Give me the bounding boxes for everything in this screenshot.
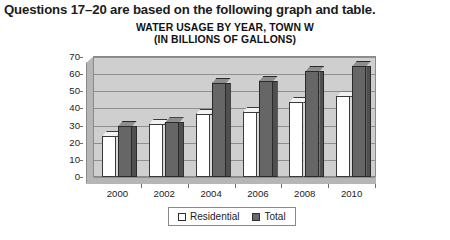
x-tick-label-2010: 2010	[330, 188, 374, 199]
y-tick-mark	[79, 74, 83, 75]
legend-label: Residential	[190, 211, 239, 222]
bar-total-2004	[212, 83, 226, 177]
y-axis: 010203040506070	[52, 56, 80, 184]
bar-front-face	[259, 81, 273, 177]
bar-total-2010	[352, 66, 366, 177]
bar-side-face	[179, 122, 184, 177]
y-tick-label: 10	[54, 155, 80, 165]
bar-total-2002	[165, 122, 179, 177]
y-tick-mark	[79, 160, 83, 161]
bar-front-face	[118, 126, 132, 177]
gridline	[94, 74, 375, 75]
x-axis: 200020022004200620082010	[94, 188, 376, 202]
bar-total-2006	[259, 81, 273, 177]
y-tick-mark	[79, 126, 83, 127]
x-tick-label-2004: 2004	[189, 188, 233, 199]
y-tick-mark	[79, 91, 83, 92]
bar-side-face	[319, 71, 324, 177]
bar-front-face	[149, 124, 163, 177]
legend-item-residential: Residential	[178, 211, 239, 222]
bar-front-face	[212, 83, 226, 177]
chart-title-line-1: WATER USAGE BY YEAR, TOWN W	[0, 22, 450, 34]
bar-front-face	[243, 112, 257, 177]
bar-side-face	[132, 126, 137, 177]
gridline	[94, 57, 375, 58]
figure-water-usage: WATER USAGE BY YEAR, TOWN W (IN BILLIONS…	[0, 22, 450, 240]
chart-title-line-2: (IN BILLIONS OF GALLONS)	[0, 34, 450, 46]
bar-side-face	[366, 66, 371, 177]
y-tick-mark	[79, 177, 83, 178]
bar-front-face	[165, 122, 179, 177]
y-tick-mark	[79, 143, 83, 144]
bar-side-face	[226, 83, 231, 177]
legend-swatch-total-icon	[252, 213, 260, 221]
x-tick-label-2002: 2002	[142, 188, 186, 199]
gridline	[94, 177, 375, 178]
y-tick-label: 50	[54, 86, 80, 96]
bar-residential-2010	[336, 96, 350, 177]
y-tick-label: 70	[54, 52, 80, 62]
gridline	[94, 108, 375, 109]
bar-total-2008	[305, 71, 319, 177]
y-tick-label: 0	[54, 172, 80, 182]
bar-front-face	[102, 136, 116, 177]
chart-title: WATER USAGE BY YEAR, TOWN W (IN BILLIONS…	[0, 22, 450, 45]
x-tick-label-2000: 2000	[95, 188, 139, 199]
bar-front-face	[352, 66, 366, 177]
plot-area	[94, 57, 375, 177]
x-tick-label-2006: 2006	[236, 188, 280, 199]
bar-front-face	[336, 96, 350, 177]
bar-front-face	[289, 102, 303, 177]
y-tick-mark	[79, 57, 83, 58]
legend-item-total: Total	[252, 211, 285, 222]
gridline	[94, 91, 375, 92]
chart-legend: ResidentialTotal	[168, 207, 296, 226]
x-tick-mark	[375, 184, 376, 188]
bar-residential-2006	[243, 112, 257, 177]
y-tick-label: 40	[54, 103, 80, 113]
y-tick-label: 30	[54, 121, 80, 131]
bar-residential-2008	[289, 102, 303, 177]
bar-side-face	[273, 81, 278, 177]
plot-wrapper	[86, 56, 376, 184]
y-tick-label: 20	[54, 138, 80, 148]
legend-label: Total	[264, 211, 285, 222]
legend-swatch-residential-icon	[178, 213, 186, 221]
bar-residential-2000	[102, 136, 116, 177]
bar-residential-2002	[149, 124, 163, 177]
y-tick-label: 60	[54, 69, 80, 79]
x-tick-label-2008: 2008	[283, 188, 327, 199]
question-heading: Questions 17–20 are based on the followi…	[4, 2, 448, 17]
bar-front-face	[305, 71, 319, 177]
bar-residential-2004	[196, 114, 210, 177]
bar-front-face	[196, 114, 210, 177]
y-tick-mark	[79, 108, 83, 109]
bar-total-2000	[118, 126, 132, 177]
